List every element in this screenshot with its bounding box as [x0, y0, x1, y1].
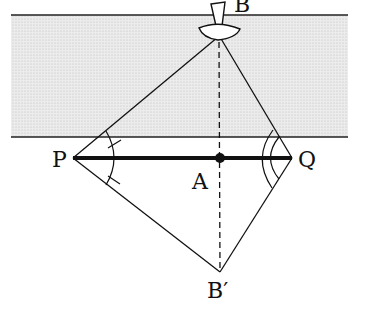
segment-QBprime [220, 158, 292, 272]
tick-mark-P-lower [108, 176, 120, 184]
point-A [215, 153, 225, 163]
diagram-svg: B P Q A B′ [0, 0, 371, 327]
label-Q: Q [298, 147, 316, 172]
label-B-prime: B′ [207, 278, 228, 303]
river-band [11, 15, 348, 137]
diagram-canvas: B P Q A B′ [0, 0, 371, 327]
label-A: A [191, 169, 209, 194]
label-P: P [52, 147, 67, 172]
tick-mark-P-upper [108, 140, 121, 148]
label-B: B [234, 0, 250, 17]
